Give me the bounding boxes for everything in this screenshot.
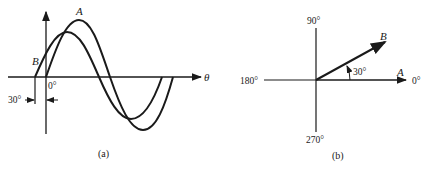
angle-30-label: 30°	[353, 67, 367, 77]
caption-a: (a)	[98, 148, 109, 160]
curve-b-label: B	[32, 55, 39, 67]
label-270: 270°	[306, 135, 324, 145]
label-90: 90°	[307, 16, 321, 26]
theta-label: θ	[204, 71, 210, 83]
label-0: 0°	[412, 76, 421, 86]
phase-shift-label: 30°	[8, 95, 22, 105]
figure-b-phasors: 90° 180° 270° 0° B A 30° (b)	[240, 16, 421, 162]
figure-a-waveforms: A B θ 0° 30° (a)	[8, 5, 210, 160]
angle-arc	[347, 66, 350, 80]
phasor-b-label: B	[380, 30, 387, 42]
phase-diagram: A B θ 0° 30° (a) 90° 180° 270° 0° B A 30…	[0, 0, 426, 169]
phasor-b	[316, 42, 385, 80]
origin-label: 0°	[48, 81, 57, 91]
caption-b: (b)	[332, 150, 344, 162]
label-180: 180°	[240, 76, 258, 86]
sine-curve-a	[46, 20, 173, 130]
curve-a-label: A	[75, 5, 83, 17]
phasor-a-label: A	[396, 66, 404, 78]
